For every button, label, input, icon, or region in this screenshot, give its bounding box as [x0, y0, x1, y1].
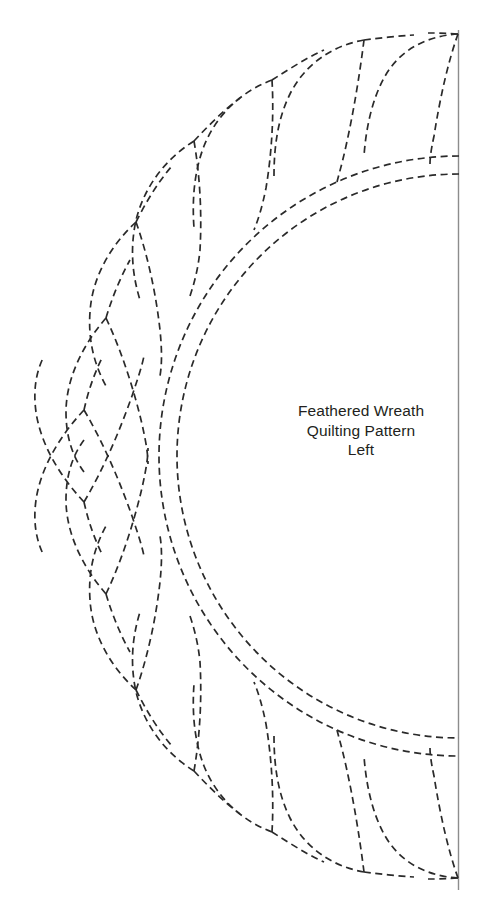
plume-outer-t5 [90, 222, 136, 386]
plume-tip-join-t3 [272, 50, 324, 80]
plume-tip-join-b6 [106, 594, 130, 652]
caption-line-2: Quilting Pattern [261, 421, 461, 441]
plume-spine-b6 [106, 448, 148, 594]
caption-line-1: Feathered Wreath [261, 401, 461, 421]
plume-tip-join-t6 [106, 260, 130, 318]
plume-outer-t4 [133, 141, 194, 300]
plume-tip-join-b5 [136, 690, 172, 746]
plume-tip-join-t5 [136, 166, 172, 222]
plume-outer-b2 [274, 736, 364, 872]
plume-outer-b5 [90, 526, 136, 690]
plume-outer-t3 [193, 80, 272, 228]
plume-spine-t1 [430, 34, 458, 164]
plume-spine-b5 [136, 536, 162, 690]
plume-tip-join-t7 [84, 358, 102, 410]
plume-outer-b1 [364, 756, 458, 878]
plume-spine-b3 [254, 682, 273, 832]
plume-spine-t6 [106, 318, 148, 464]
plume-tip-join-t1 [428, 33, 458, 34]
plume-spine-b7 [84, 356, 144, 502]
plume-tip-join-b1 [428, 878, 458, 879]
plume-spine-t5 [136, 222, 162, 376]
plume-spine-t2 [337, 40, 364, 182]
plume-tip-join-b2 [364, 872, 414, 877]
plume-tip-join-b7 [84, 502, 102, 554]
caption-line-3: Left [261, 440, 461, 460]
plume-outer-t2 [274, 40, 364, 176]
plume-spine-t3 [254, 80, 273, 230]
plume-spine-t7 [84, 410, 144, 556]
plume-outer-b7 [35, 356, 84, 502]
plume-tip-join-t2 [364, 35, 414, 40]
plume-outer-t7 [35, 410, 84, 556]
plume-tip-join-b3 [272, 832, 324, 862]
plume-outer-t1 [364, 34, 458, 156]
plume-outer-b6 [66, 440, 106, 594]
plume-spine-b1 [430, 748, 458, 878]
plume-spine-b2 [337, 730, 364, 872]
plume-outer-b4 [133, 612, 194, 771]
quilting-pattern-page: Feathered Wreath Quilting Pattern Left [0, 0, 477, 913]
plume-outer-t6 [66, 318, 106, 472]
plume-outer-b3 [193, 684, 272, 832]
pattern-caption: Feathered Wreath Quilting Pattern Left [261, 401, 461, 460]
